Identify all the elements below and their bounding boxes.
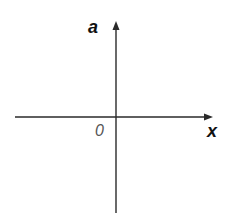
x-axis-arrowhead-icon xyxy=(204,114,213,121)
y-axis-arrowhead-icon xyxy=(113,21,120,30)
origin-label: 0 xyxy=(95,123,104,139)
y-axis-label: a xyxy=(88,18,98,36)
x-axis-label: x xyxy=(207,122,217,140)
coordinate-diagram: a x 0 xyxy=(0,0,233,213)
axes-graphic xyxy=(0,0,233,213)
